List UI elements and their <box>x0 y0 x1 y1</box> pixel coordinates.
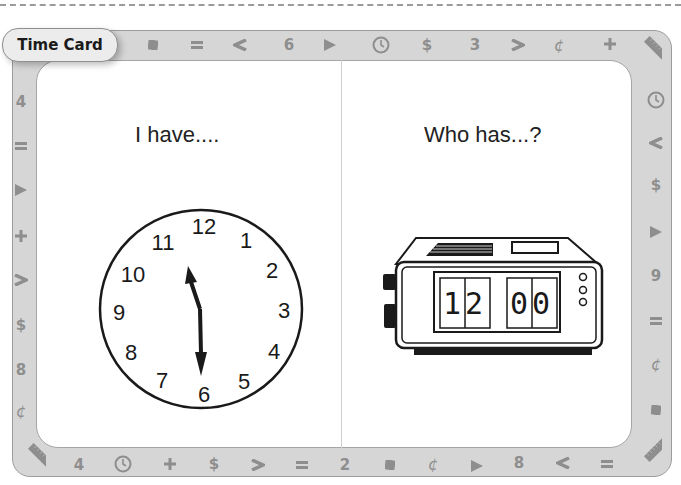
clock-number: 2 <box>266 258 278 283</box>
ruler-icon <box>642 440 662 460</box>
who-has-heading: Who has...? <box>424 122 541 148</box>
triangle-icon <box>646 222 666 242</box>
dollar-icon: $ <box>11 315 31 335</box>
square-icon <box>646 400 666 420</box>
clock-number: 8 <box>125 340 137 365</box>
dollar-icon: $ <box>646 175 666 195</box>
clock-icon <box>371 35 391 55</box>
border-number: 2 <box>335 455 355 475</box>
border-number: 6 <box>279 35 299 55</box>
digital-hours: 12 <box>443 286 487 321</box>
square-icon <box>143 35 163 55</box>
clock-number: 5 <box>238 369 250 394</box>
cent-icon: ¢ <box>646 354 666 374</box>
triangle-icon <box>467 456 487 476</box>
equals-icon <box>292 455 312 475</box>
dollar-icon: $ <box>417 35 437 55</box>
clock-number: 7 <box>156 368 168 393</box>
cent-icon: ¢ <box>11 401 31 421</box>
less-than-icon <box>646 133 666 153</box>
plus-icon <box>160 454 180 474</box>
border-number: 4 <box>69 455 89 475</box>
border-number: 8 <box>11 360 31 380</box>
cent-icon: ¢ <box>423 454 443 474</box>
card-title: Time Card <box>2 28 118 62</box>
cent-icon: ¢ <box>549 35 569 55</box>
clock-number: 3 <box>278 298 290 323</box>
plus-icon <box>11 226 31 246</box>
less-than-icon <box>230 35 250 55</box>
clock-number: 9 <box>113 300 125 325</box>
ruler-icon <box>642 38 662 58</box>
greater-than-icon <box>248 455 268 475</box>
card-divider <box>341 60 342 448</box>
cut-line <box>0 4 681 6</box>
dollar-icon: $ <box>204 454 224 474</box>
triangle-icon <box>320 35 340 55</box>
equals-icon <box>646 311 666 331</box>
greater-than-icon <box>508 35 528 55</box>
i-have-heading: I have.... <box>135 122 219 148</box>
minute-hand <box>200 309 201 354</box>
border-number: 8 <box>509 453 529 473</box>
clock-number: 1 <box>240 228 252 253</box>
clock-number: 4 <box>268 339 280 364</box>
clock-number: 10 <box>121 262 145 287</box>
equals-icon <box>187 35 207 55</box>
border-number: 4 <box>11 92 31 112</box>
clock-icon <box>113 454 133 474</box>
clock-number: 6 <box>198 382 210 407</box>
clock-number: 12 <box>192 214 216 239</box>
border-number: 3 <box>465 35 485 55</box>
digital-minutes: 00 <box>510 286 554 321</box>
border-number: 9 <box>646 266 666 286</box>
digital-clock: 12 00 <box>378 228 606 362</box>
less-than-icon <box>553 453 573 473</box>
plus-icon <box>600 34 620 54</box>
equals-icon <box>597 454 617 474</box>
clock-number: 11 <box>152 230 175 255</box>
greater-than-icon <box>11 270 31 290</box>
clock-icon <box>646 90 666 110</box>
analog-clock: 12 1 2 3 4 5 6 7 8 9 10 11 <box>94 204 308 418</box>
equals-icon <box>11 136 31 156</box>
triangle-icon <box>11 180 31 200</box>
ruler-icon <box>26 445 46 465</box>
square-icon <box>380 455 400 475</box>
